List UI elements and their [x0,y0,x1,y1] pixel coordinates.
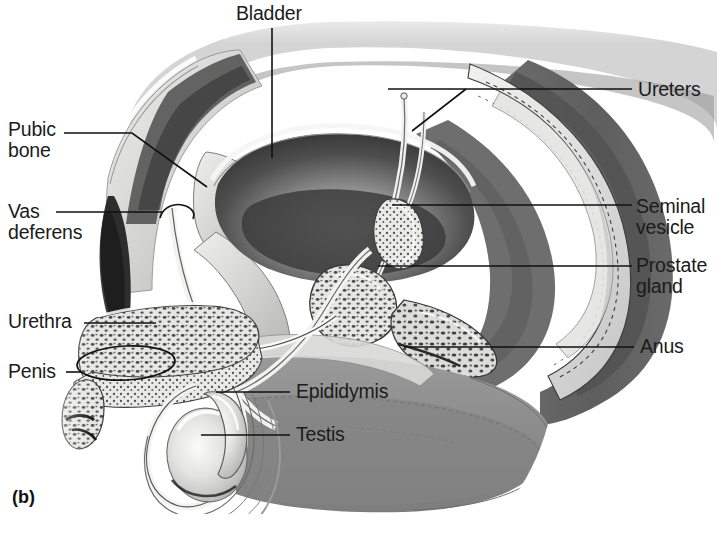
anatomy-figure: Bladder Ureters Pubic bone Vas deferens … [0,0,717,536]
label-epididymis: Epididymis [296,381,388,402]
label-anus: Anus [640,336,684,357]
label-vas-deferens: Vas deferens [8,201,82,243]
label-seminal-vesicle: Seminal vesicle [636,196,705,238]
anatomy-illustration [0,0,717,536]
label-penis: Penis [8,361,56,382]
label-urethra: Urethra [8,311,72,332]
label-ureters: Ureters [638,79,701,100]
label-pubic-bone: Pubic bone [8,119,56,161]
label-prostate-gland: Prostate gland [636,255,707,297]
label-testis: Testis [296,424,345,445]
illustration-body [0,0,717,536]
figure-caption: (b) [12,487,35,508]
label-bladder: Bladder [236,3,302,24]
